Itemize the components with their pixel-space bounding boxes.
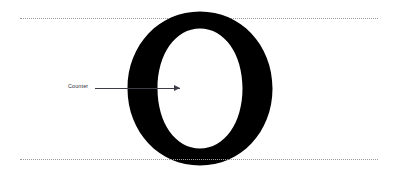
baseline-guideline: [20, 159, 378, 160]
counter-annotation-label: Counter: [68, 83, 88, 89]
typography-anatomy-diagram: Counter: [0, 0, 398, 172]
counter-leader-line: [95, 88, 180, 89]
arrow-right-icon: [174, 85, 180, 91]
